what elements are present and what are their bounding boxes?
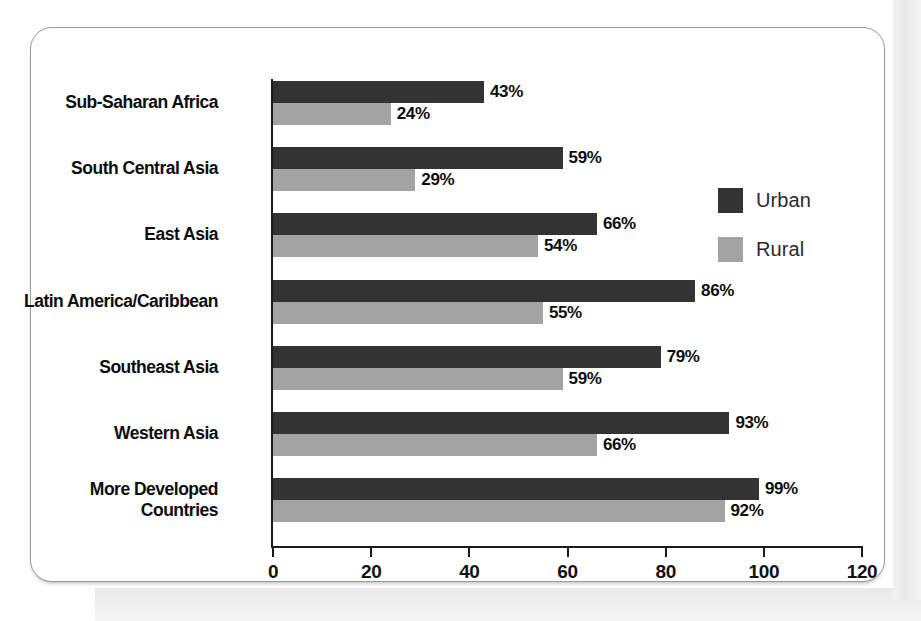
bar-urban: [273, 412, 729, 434]
chart-row: Southeast Asia79%59%: [31, 346, 884, 390]
legend-swatch-icon: [718, 237, 743, 262]
page-right-band: [893, 0, 921, 600]
bar-chart-plot: 020406080100120 Sub-Saharan Africa43%24%…: [31, 28, 884, 581]
x-axis-tick-label: 80: [655, 561, 675, 583]
bar-rural: [273, 235, 538, 257]
x-axis-tick-label: 0: [268, 561, 278, 583]
bar-value-label: 79%: [667, 346, 700, 368]
bar-urban: [273, 213, 597, 235]
chart-row: Western Asia93%66%: [31, 412, 884, 456]
category-label: East Asia: [0, 224, 218, 245]
x-axis-tick: [763, 546, 765, 557]
bar-value-label: 55%: [549, 302, 582, 324]
bar-value-label: 54%: [544, 235, 577, 257]
legend-label: Rural: [756, 238, 804, 261]
chart-legend: UrbanRural: [718, 188, 811, 286]
x-axis-tick: [468, 546, 470, 557]
bar-urban: [273, 147, 563, 169]
bar-rural: [273, 103, 391, 125]
x-axis-tick-label: 100: [749, 561, 780, 583]
x-axis-tick: [861, 546, 863, 557]
legend-swatch-icon: [718, 188, 743, 213]
bar-rural: [273, 500, 725, 522]
bar-rural: [273, 434, 597, 456]
bar-urban: [273, 346, 661, 368]
bar-value-label: 29%: [421, 169, 454, 191]
x-axis-tick: [370, 546, 372, 557]
chart-row: Latin America/Caribbean86%55%: [31, 280, 884, 324]
bar-value-label: 99%: [765, 478, 798, 500]
x-axis-tick-label: 60: [557, 561, 577, 583]
x-axis-tick: [665, 546, 667, 557]
legend-item: Rural: [718, 237, 811, 262]
bar-urban: [273, 478, 759, 500]
category-label: South Central Asia: [0, 158, 218, 179]
category-label: Latin America/Caribbean: [0, 291, 218, 312]
bar-value-label: 93%: [735, 412, 768, 434]
category-label: More Developed Countries: [0, 479, 218, 521]
x-axis-tick-label: 40: [459, 561, 479, 583]
bar-value-label: 24%: [397, 103, 430, 125]
bar-rural: [273, 169, 415, 191]
bar-urban: [273, 280, 695, 302]
chart-row: Sub-Saharan Africa43%24%: [31, 81, 884, 125]
bar-value-label: 59%: [569, 147, 602, 169]
x-axis-tick: [272, 546, 274, 557]
x-axis-tick: [567, 546, 569, 557]
legend-label: Urban: [756, 189, 811, 212]
chart-row: More Developed Countries99%92%: [31, 478, 884, 522]
chart-row: South Central Asia59%29%: [31, 147, 884, 191]
legend-item: Urban: [718, 188, 811, 213]
category-label: Western Asia: [0, 423, 218, 444]
bar-value-label: 92%: [731, 500, 764, 522]
bar-value-label: 59%: [569, 368, 602, 390]
bar-value-label: 66%: [603, 434, 636, 456]
x-axis-tick-label: 20: [361, 561, 381, 583]
bar-rural: [273, 368, 563, 390]
category-label: Sub-Saharan Africa: [0, 92, 218, 113]
bar-rural: [273, 302, 543, 324]
bar-value-label: 43%: [490, 81, 523, 103]
chart-card: 020406080100120 Sub-Saharan Africa43%24%…: [30, 27, 885, 582]
bar-value-label: 66%: [603, 213, 636, 235]
x-axis-tick-label: 120: [847, 561, 878, 583]
bar-urban: [273, 81, 484, 103]
category-label: Southeast Asia: [0, 357, 218, 378]
page-bottom-band: [95, 588, 921, 621]
